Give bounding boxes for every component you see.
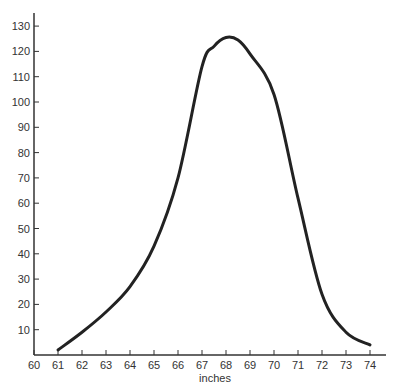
y-tick-label: 10: [18, 324, 30, 336]
x-tick-label: 70: [268, 359, 280, 371]
x-tick-label: 60: [28, 359, 40, 371]
distribution-curve: [58, 37, 370, 350]
y-tick-label: 130: [12, 20, 30, 32]
x-axis: 606162636465666768697071727374: [28, 350, 386, 371]
x-tick-label: 73: [340, 359, 352, 371]
x-tick-label: 72: [316, 359, 328, 371]
y-axis: 102030405060708090100110120130: [12, 13, 39, 355]
y-tick-label: 110: [12, 71, 30, 83]
y-tick-label: 120: [12, 45, 30, 57]
y-tick-label: 100: [12, 96, 30, 108]
y-tick-label: 60: [18, 197, 30, 209]
x-axis-label: inches: [199, 372, 231, 384]
x-tick-label: 64: [124, 359, 136, 371]
x-tick-label: 61: [52, 359, 64, 371]
x-tick-label: 66: [172, 359, 184, 371]
y-tick-label: 40: [18, 248, 30, 260]
y-tick-label: 80: [18, 147, 30, 159]
x-tick-label: 71: [292, 359, 304, 371]
x-tick-label: 62: [76, 359, 88, 371]
x-tick-label: 68: [220, 359, 232, 371]
x-tick-label: 74: [364, 359, 376, 371]
y-tick-label: 90: [18, 121, 30, 133]
x-tick-label: 67: [196, 359, 208, 371]
x-tick-label: 69: [244, 359, 256, 371]
x-tick-label: 63: [100, 359, 112, 371]
x-tick-label: 65: [148, 359, 160, 371]
y-tick-label: 50: [18, 223, 30, 235]
y-tick-label: 20: [18, 298, 30, 310]
y-tick-label: 30: [18, 273, 30, 285]
y-tick-label: 70: [18, 172, 30, 184]
bell-curve-chart: 102030405060708090100110120130 606162636…: [0, 0, 400, 390]
